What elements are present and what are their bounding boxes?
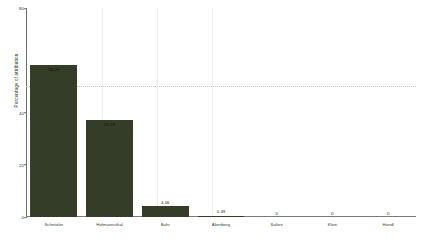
bar-bahr[interactable] bbox=[142, 206, 189, 217]
bar-value-salten: 0 bbox=[249, 211, 305, 216]
bar-group-hofmannsthal[interactable]: 37.19Hofmannsthal bbox=[82, 8, 138, 217]
y-tick-40-label: 40 bbox=[19, 110, 24, 115]
plot-area: 0 20 40 80 58.26Schnitzler37.19Hofmannst… bbox=[26, 8, 416, 217]
y-tick-80-label: 80 bbox=[19, 6, 24, 11]
bar-hofmannsthal[interactable] bbox=[86, 120, 133, 217]
bar-group-salten[interactable]: 0Salten bbox=[249, 8, 305, 217]
bar-value-altenberg: 0.49 bbox=[193, 209, 249, 214]
y-axis-label: Percentage of attribution bbox=[14, 21, 19, 141]
bar-group-bahr[interactable]: 4.06Bahr bbox=[137, 8, 193, 217]
bar-group-handl[interactable]: 0Handl bbox=[360, 8, 416, 217]
y-tick-80: 80 bbox=[13, 6, 24, 11]
y-tick-0: 0 bbox=[13, 215, 24, 220]
y-tick-20-label: 20 bbox=[19, 162, 24, 167]
bar-group-schnitzler[interactable]: 58.26Schnitzler bbox=[26, 8, 82, 217]
x-tick-handl: Handl bbox=[330, 222, 423, 227]
y-tick-20: 20 bbox=[13, 162, 24, 167]
bar-series: 58.26Schnitzler37.19Hofmannsthal4.06Bahr… bbox=[26, 8, 416, 217]
bar-value-handl: 0 bbox=[360, 211, 416, 216]
bar-group-klein[interactable]: 0Klein bbox=[305, 8, 361, 217]
bar-altenberg[interactable] bbox=[198, 216, 245, 217]
bar-value-schnitzler: 58.26 bbox=[26, 67, 82, 72]
bar-group-altenberg[interactable]: 0.49Altenberg bbox=[193, 8, 249, 217]
bar-value-bahr: 4.06 bbox=[137, 200, 193, 205]
y-tick-40: 40 bbox=[13, 110, 24, 115]
bar-schnitzler[interactable] bbox=[30, 65, 77, 217]
bar-chart: Percentage of attribution 0 20 40 80 58.… bbox=[0, 0, 423, 244]
bar-value-klein: 0 bbox=[305, 211, 361, 216]
bar-value-hofmannsthal: 37.19 bbox=[82, 122, 138, 127]
